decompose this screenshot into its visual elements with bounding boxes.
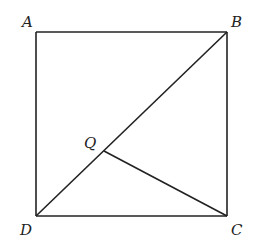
label-b: B [230,13,242,31]
geometry-diagram: A B C D Q [0,0,258,244]
label-c: C [231,221,243,239]
label-a: A [20,13,33,31]
label-q: Q [84,134,96,152]
label-d: D [19,221,32,239]
segment-qc [104,151,227,216]
diagonal-bd [36,32,227,216]
